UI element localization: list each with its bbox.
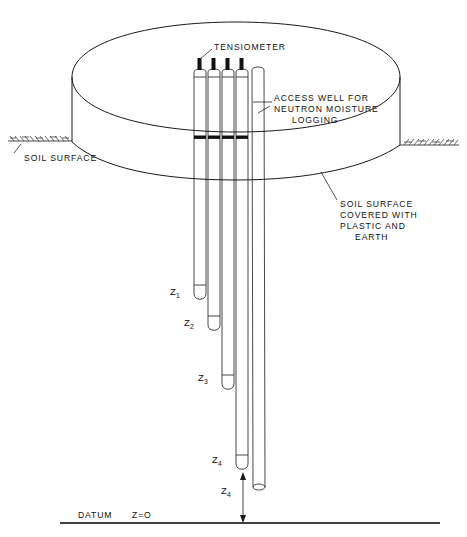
ground-hatch-right: [404, 139, 458, 145]
covered-surface-label-line-4: EARTH: [355, 232, 388, 242]
datum-label: DATUM: [78, 510, 112, 520]
depth-label-z3: Z3: [198, 372, 208, 385]
access-well-label-line-2: NEUTRON MOISTURE: [274, 104, 379, 114]
covered-surface-leader-line: [321, 172, 337, 200]
tensiometer-tube-2: [208, 58, 220, 330]
tensiometer-band-3: [222, 136, 234, 139]
tensiometer-cap-3: [226, 58, 230, 70]
z4-arrow-head-top: [240, 472, 246, 480]
ground-hatch-left: [10, 136, 69, 141]
diagram-root: TENSIOMETER ACCESS WELL FOR NEUTRON MOIS…: [0, 0, 467, 537]
covered-surface-label-line-1: SOIL SURFACE: [340, 199, 413, 209]
z4-arrow-head-bottom: [240, 515, 246, 523]
tensiometer-tube-4: [236, 58, 248, 469]
tensiometer-tube-3: [222, 58, 234, 389]
access-well-open-bottom: [253, 484, 265, 490]
depth-label-z4-dimension: Z4: [221, 485, 231, 498]
covered-surface-label-line-2: COVERED WITH: [340, 210, 418, 220]
tensiometer-band-4: [236, 136, 248, 139]
datum-value-label: Z=O: [132, 510, 152, 520]
tensiometer-cap-4: [240, 58, 244, 70]
access-well-label-line-1: ACCESS WELL FOR: [274, 93, 369, 103]
tensiometer-cap-2: [212, 58, 216, 70]
depth-label-z2: Z2: [184, 317, 194, 330]
tensiometer-leader-line: [200, 49, 212, 59]
tensiometer-band-1: [194, 136, 206, 139]
soil-surface-left-leader-line: [14, 144, 21, 153]
access-well-label-line-3: LOGGING: [292, 115, 338, 125]
tensiometer-cap-1: [198, 58, 202, 70]
tensiometer-label: TENSIOMETER: [214, 42, 286, 52]
tensiometer-band-2: [208, 136, 220, 139]
depth-label-z1: Z1: [170, 286, 180, 299]
soil-surface-left-label: SOIL SURFACE: [24, 153, 97, 163]
depth-label-z4-tip: Z4: [212, 454, 222, 467]
access-well-tube: [252, 67, 265, 490]
covered-surface-label-line-3: PLASTIC AND: [340, 221, 406, 231]
cross-section-figure: TENSIOMETER ACCESS WELL FOR NEUTRON MOIS…: [0, 0, 467, 537]
